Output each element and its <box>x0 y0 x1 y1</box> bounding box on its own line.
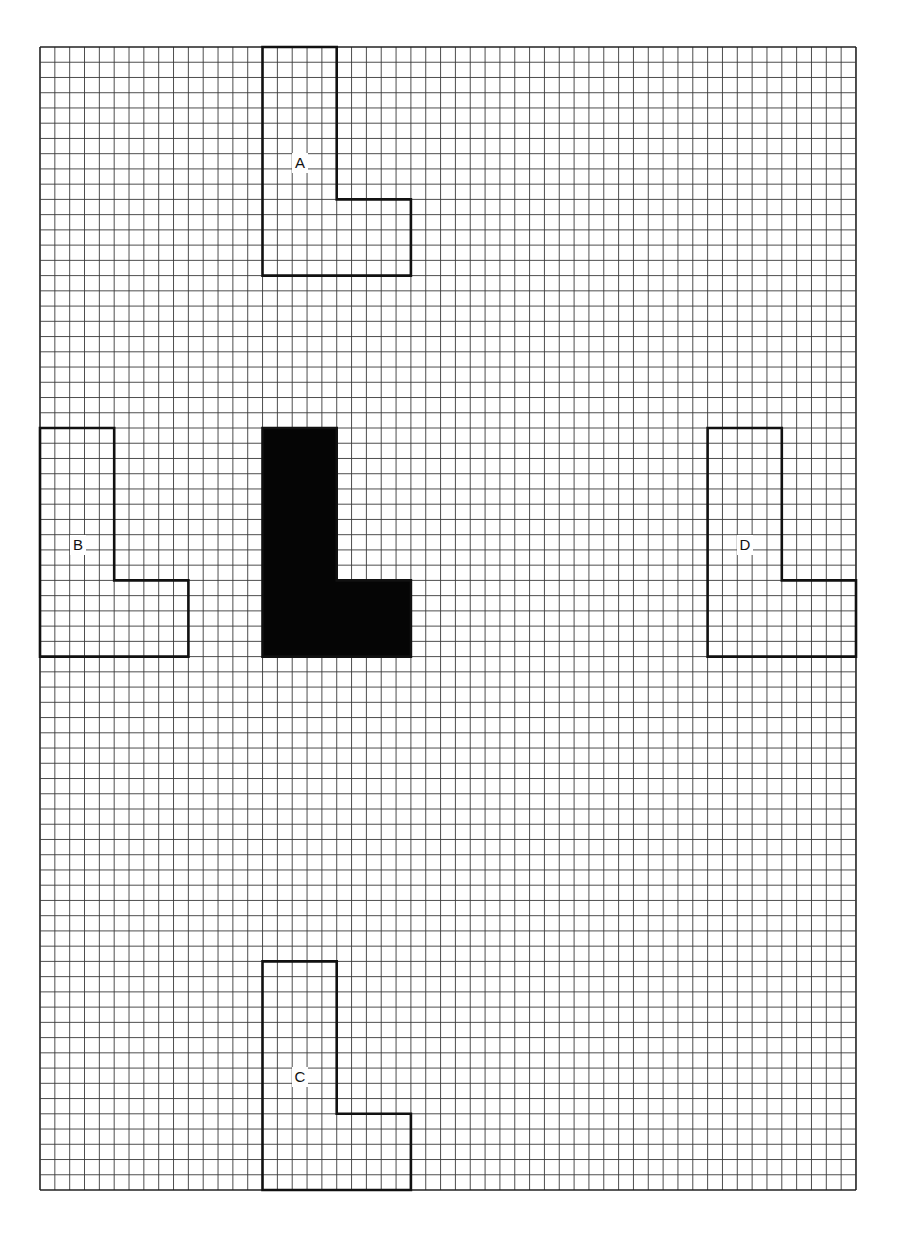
shape-label-a: A <box>295 154 305 171</box>
shapes-layer <box>40 47 856 1190</box>
grid-diagram: ABDC <box>0 0 902 1239</box>
graph-paper-grid <box>40 47 856 1190</box>
shape-label-c: C <box>295 1068 306 1085</box>
shape-label-d: D <box>740 536 751 553</box>
shape-label-b: B <box>73 536 83 553</box>
original-l-shape-filled <box>263 428 411 657</box>
